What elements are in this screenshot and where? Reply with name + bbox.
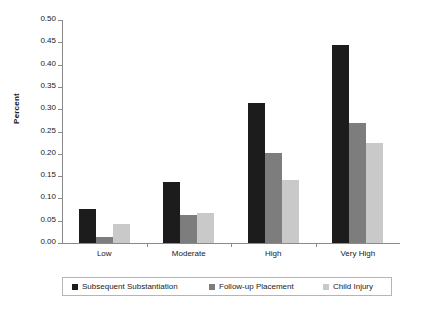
y-tick-label: 0.05 (40, 215, 56, 224)
legend-item[interactable]: Follow-up Placement (209, 282, 294, 291)
y-tick-mark (58, 154, 62, 155)
y-tick-mark (58, 198, 62, 199)
x-tick-mark (147, 243, 148, 247)
y-tick-label: 0.15 (40, 170, 56, 179)
y-tick-label: 0.35 (40, 81, 56, 90)
bar[interactable] (96, 237, 113, 243)
y-tick-label: 0.50 (40, 14, 56, 23)
y-tick-mark (58, 20, 62, 21)
y-tick-label: 0.10 (40, 192, 56, 201)
bar[interactable] (180, 215, 197, 243)
y-tick-mark (58, 176, 62, 177)
bar[interactable] (366, 143, 383, 243)
y-tick-label: 0.25 (40, 126, 56, 135)
x-tick-label: Very High (313, 249, 403, 258)
bar-group (332, 20, 383, 243)
x-tick-label: High (228, 249, 318, 258)
bar[interactable] (349, 123, 366, 243)
bar[interactable] (197, 213, 214, 243)
y-tick-label: 0.45 (40, 36, 56, 45)
bar-group (79, 20, 130, 243)
bar[interactable] (248, 103, 265, 243)
x-tick-mark (231, 243, 232, 247)
y-tick-label: 0.30 (40, 103, 56, 112)
bar[interactable] (163, 182, 180, 243)
legend-label: Follow-up Placement (219, 282, 294, 291)
y-tick-mark (58, 243, 62, 244)
x-tick-mark (316, 243, 317, 247)
legend-label: Child Injury (333, 282, 373, 291)
chart-legend: Subsequent SubstantiationFollow-up Place… (62, 277, 392, 296)
legend-label: Subsequent Substantiation (82, 282, 178, 291)
x-tick-label: Moderate (144, 249, 234, 258)
y-tick-mark (58, 221, 62, 222)
y-axis-label: Percent (12, 69, 21, 149)
bar[interactable] (282, 180, 299, 243)
x-tick-label: Low (59, 249, 149, 258)
legend-item[interactable]: Subsequent Substantiation (72, 282, 178, 291)
bar-chart: Percent 0.000.050.100.150.200.250.300.35… (0, 0, 444, 318)
bar[interactable] (113, 224, 130, 243)
y-tick-mark (58, 109, 62, 110)
y-tick-mark (58, 65, 62, 66)
y-tick-label: 0.40 (40, 59, 56, 68)
y-tick-mark (58, 42, 62, 43)
bar-group (163, 20, 214, 243)
bar[interactable] (265, 153, 282, 243)
legend-item[interactable]: Child Injury (323, 282, 373, 291)
y-tick-label: 0.20 (40, 148, 56, 157)
bar-group (248, 20, 299, 243)
y-tick-label: 0.00 (40, 237, 56, 246)
bar[interactable] (332, 45, 349, 243)
y-tick-mark (58, 132, 62, 133)
y-axis-line (62, 20, 63, 243)
legend-swatch (209, 284, 215, 290)
legend-swatch (323, 284, 329, 290)
bar[interactable] (79, 209, 96, 243)
plot-area: 0.000.050.100.150.200.250.300.350.400.45… (62, 20, 400, 243)
y-tick-mark (58, 87, 62, 88)
legend-swatch (72, 284, 78, 290)
